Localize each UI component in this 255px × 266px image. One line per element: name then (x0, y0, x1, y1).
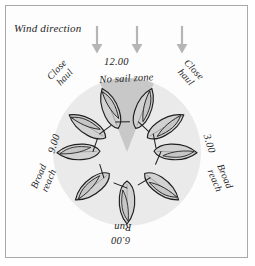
wind-arrow-center (132, 26, 143, 54)
wind-arrow-left (92, 26, 103, 54)
clock-label-6: 6.00 (111, 235, 130, 246)
wind-arrow-group (92, 26, 188, 54)
run-label: Run (114, 222, 132, 233)
wind-direction-label: Wind direction (14, 23, 81, 35)
figure-stage: Wind direction 12.00 No sail zone Close … (0, 0, 255, 266)
clock-label-12: 12.00 (104, 56, 129, 67)
sailing-points-of-sail-figure: Wind direction 12.00 No sail zone Close … (0, 0, 255, 266)
wind-arrow-right (177, 26, 188, 54)
